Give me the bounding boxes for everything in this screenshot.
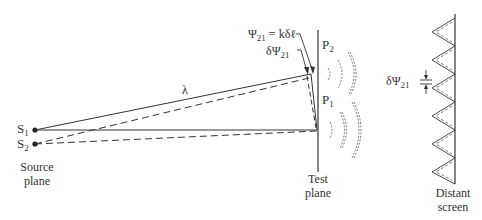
label-s1: S1	[17, 122, 29, 136]
arrowhead-icon	[304, 67, 309, 75]
screen-phase-marker	[420, 70, 432, 94]
arrowhead-icon	[310, 66, 315, 74]
label-psi21-eq: Ψ21 = kδℓ	[248, 27, 296, 41]
label-distant-screen: Distant screen	[428, 186, 478, 214]
label-screen-dpsi21: δΨ21	[386, 74, 410, 88]
wavefronts-p1	[330, 102, 361, 158]
ray-s2-p2	[35, 78, 309, 144]
label-dpsi21: δΨ21	[266, 44, 290, 58]
interference-diagram	[0, 0, 482, 220]
ray-s1-p2	[35, 74, 311, 130]
arrowhead-icon	[424, 84, 428, 89]
label-p1: P1	[322, 93, 334, 107]
path-p2-p1-dashed	[307, 76, 316, 128]
fringe-pattern	[432, 18, 455, 184]
label-source-plane: Source plane	[14, 160, 60, 188]
label-s2: S2	[17, 137, 29, 151]
label-test-plane: Test plane	[296, 172, 340, 200]
fringe-pattern-dashed	[436, 22, 452, 180]
label-lambda: λ	[182, 83, 188, 97]
arrowhead-icon	[424, 75, 428, 80]
wavefronts-p2	[328, 52, 356, 96]
label-p2: P2	[322, 38, 334, 52]
ray-s2-p1	[35, 131, 317, 144]
